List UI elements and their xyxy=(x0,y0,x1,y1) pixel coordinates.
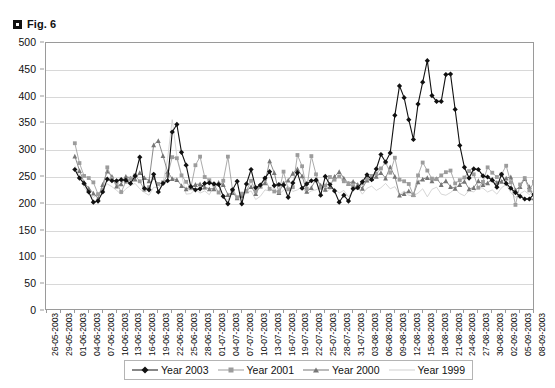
filled-square-icon xyxy=(13,20,22,29)
x-tick-mark xyxy=(450,310,451,313)
legend-item-year-2001[interactable]: Year 2001 xyxy=(218,364,295,376)
y-tick-label: 450 xyxy=(18,63,36,75)
legend-label: Year 2003 xyxy=(161,364,209,376)
x-tick-mark xyxy=(408,310,409,313)
legend-label: Year 2000 xyxy=(332,364,380,376)
y-tick-label: 400 xyxy=(18,90,36,102)
x-tick-label: 02-09-2003 xyxy=(509,313,519,356)
y-tick-mark xyxy=(40,42,44,43)
x-tick-label: 07-07-2003 xyxy=(245,313,255,356)
legend-label: Year 2001 xyxy=(247,364,295,376)
figure-container: Fig. 6 500450400350300250200150100500 26… xyxy=(0,0,555,388)
x-tick-label: 10-06-2003 xyxy=(120,313,130,356)
x-tick-label: 28-07-2003 xyxy=(342,313,352,356)
x-tick-label: 04-06-2003 xyxy=(92,313,102,356)
x-tick-mark xyxy=(324,310,325,313)
y-tick-mark xyxy=(40,149,44,150)
x-tick-mark xyxy=(269,310,270,313)
x-tick-mark xyxy=(338,310,339,313)
x-tick-label: 05-09-2003 xyxy=(523,313,533,356)
x-axis: 26-05-200329-05-200301-06-200304-06-2003… xyxy=(45,310,534,358)
x-tick-mark xyxy=(60,310,61,313)
x-tick-label: 29-05-2003 xyxy=(64,313,74,356)
y-tick-mark xyxy=(40,122,44,123)
x-tick-label: 01-06-2003 xyxy=(78,313,88,356)
y-tick-mark xyxy=(40,229,44,230)
legend-swatch-icon xyxy=(218,365,244,375)
y-axis: 500450400350300250200150100500 xyxy=(0,42,40,310)
y-tick-label: 250 xyxy=(18,170,36,182)
x-tick-mark xyxy=(88,310,89,313)
y-tick-mark xyxy=(40,95,44,96)
y-tick-mark xyxy=(40,176,44,177)
y-tick-mark xyxy=(40,283,44,284)
x-tick-label: 07-06-2003 xyxy=(106,313,116,356)
x-tick-label: 22-06-2003 xyxy=(175,313,185,356)
x-tick-label: 19-06-2003 xyxy=(161,313,171,356)
x-tick-label: 28-06-2003 xyxy=(203,313,213,356)
x-tick-label: 04-07-2003 xyxy=(231,313,241,356)
plot-svg xyxy=(46,43,534,310)
x-tick-label: 13-07-2003 xyxy=(273,313,283,356)
x-tick-mark xyxy=(436,310,437,313)
x-tick-mark xyxy=(380,310,381,313)
x-tick-mark xyxy=(422,310,423,313)
x-tick-label: 24-08-2003 xyxy=(467,313,477,356)
x-tick-label: 06-08-2003 xyxy=(384,313,394,356)
x-tick-label: 13-06-2003 xyxy=(133,313,143,356)
x-tick-mark xyxy=(463,310,464,313)
y-tick-label: 200 xyxy=(18,197,36,209)
x-tick-label: 21-08-2003 xyxy=(454,313,464,356)
x-tick-label: 25-06-2003 xyxy=(189,313,199,356)
x-tick-mark xyxy=(129,310,130,313)
x-tick-mark xyxy=(352,310,353,313)
y-tick-label: 300 xyxy=(18,143,36,155)
x-tick-label: 10-07-2003 xyxy=(259,313,269,356)
legend-item-year-1999[interactable]: Year 1999 xyxy=(389,364,466,376)
x-tick-label: 27-08-2003 xyxy=(481,313,491,356)
x-tick-mark xyxy=(199,310,200,313)
legend-swatch-icon xyxy=(389,365,415,375)
x-tick-label: 16-06-2003 xyxy=(147,313,157,356)
x-tick-mark xyxy=(519,310,520,313)
legend-item-year-2003[interactable]: Year 2003 xyxy=(132,364,209,376)
y-tick-label: 0 xyxy=(30,304,36,316)
y-tick-mark xyxy=(40,256,44,257)
x-tick-mark xyxy=(310,310,311,313)
x-tick-mark xyxy=(255,310,256,313)
x-tick-mark xyxy=(533,310,534,313)
x-tick-mark xyxy=(171,310,172,313)
x-tick-label: 08-09-2003 xyxy=(537,313,547,356)
x-tick-label: 03-08-2003 xyxy=(370,313,380,356)
figure-caption-label: Fig. 6 xyxy=(27,18,56,30)
x-tick-mark xyxy=(477,310,478,313)
x-tick-mark xyxy=(283,310,284,313)
y-tick-label: 350 xyxy=(18,116,36,128)
x-tick-mark xyxy=(46,310,47,313)
legend-item-year-2000[interactable]: Year 2000 xyxy=(303,364,380,376)
x-tick-mark xyxy=(213,310,214,313)
y-tick-mark xyxy=(40,310,44,311)
x-tick-label: 31-07-2003 xyxy=(356,313,366,356)
x-tick-label: 09-08-2003 xyxy=(398,313,408,356)
x-tick-mark xyxy=(296,310,297,313)
x-tick-label: 22-07-2003 xyxy=(314,313,324,356)
x-tick-label: 19-07-2003 xyxy=(300,313,310,356)
x-tick-mark xyxy=(241,310,242,313)
x-tick-mark xyxy=(394,310,395,313)
figure-caption: Fig. 6 xyxy=(13,18,56,30)
x-tick-mark xyxy=(366,310,367,313)
x-tick-label: 15-08-2003 xyxy=(426,313,436,356)
x-tick-label: 18-08-2003 xyxy=(440,313,450,356)
x-tick-mark xyxy=(102,310,103,313)
x-tick-label: 16-07-2003 xyxy=(287,313,297,356)
x-tick-mark xyxy=(74,310,75,313)
legend-label: Year 1999 xyxy=(418,364,466,376)
x-tick-label: 01-07-2003 xyxy=(217,313,227,356)
y-tick-label: 500 xyxy=(18,36,36,48)
x-tick-label: 12-08-2003 xyxy=(412,313,422,356)
y-tick-mark xyxy=(40,68,44,69)
x-tick-mark xyxy=(116,310,117,313)
x-tick-mark xyxy=(505,310,506,313)
y-tick-label: 100 xyxy=(18,250,36,262)
